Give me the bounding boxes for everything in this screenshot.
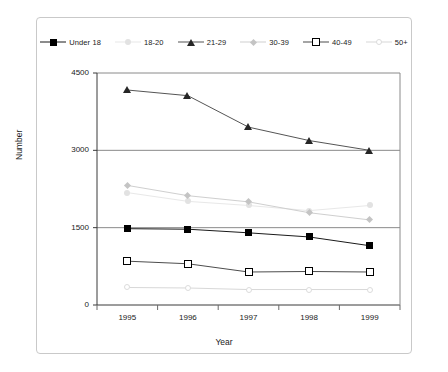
- data-point-marker: [184, 260, 192, 268]
- x-tick-label: 1999: [340, 313, 400, 322]
- plot-area: 0150030004500 19951996199719981999: [0, 0, 448, 372]
- y-axis-title: Number: [14, 130, 24, 160]
- data-point-marker: [245, 268, 253, 276]
- data-point-marker: [306, 233, 313, 240]
- data-point-marker: [124, 190, 130, 196]
- data-point-marker: [184, 226, 191, 233]
- x-tick-label: 1995: [97, 313, 157, 322]
- data-point-marker: [183, 92, 191, 99]
- data-point-marker: [246, 287, 252, 293]
- data-point-marker: [305, 267, 313, 275]
- y-tick-label: 0: [49, 300, 89, 309]
- x-tick-label: 1998: [279, 313, 339, 322]
- x-tick-label: 1996: [158, 313, 218, 322]
- data-point-marker: [123, 86, 131, 93]
- data-point-marker: [367, 287, 373, 293]
- data-point-marker: [123, 257, 131, 265]
- data-point-marker: [244, 123, 252, 130]
- data-point-marker: [124, 225, 131, 232]
- data-point-marker: [366, 242, 373, 249]
- chart-screenshot: Under 1818-2021-2930-3940-4950+ 01500300…: [0, 0, 448, 372]
- x-axis-title: Year: [0, 337, 448, 347]
- data-point-marker: [185, 285, 191, 291]
- data-point-marker: [306, 287, 312, 293]
- data-point-marker: [305, 137, 313, 144]
- y-tick-label: 4500: [49, 68, 89, 77]
- data-point-marker: [245, 229, 252, 236]
- y-tick-label: 3000: [49, 145, 89, 154]
- data-point-marker: [366, 268, 374, 276]
- y-tick-label: 1500: [49, 223, 89, 232]
- x-tick-label: 1997: [219, 313, 279, 322]
- data-point-marker: [365, 147, 373, 154]
